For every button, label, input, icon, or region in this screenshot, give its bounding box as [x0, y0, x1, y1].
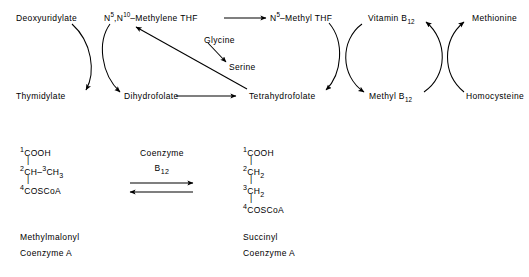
methylene-thf-suffix: –Methylene THF [130, 13, 198, 23]
caption-succinyl-line2: Coenzyme A [243, 245, 295, 261]
succinyl-group-coscoa: COSCoA [247, 205, 284, 215]
vitamin-b12-text: Vitamin B [368, 13, 407, 23]
structure-succinyl-coa: 1COOH | 2CH2 | 3CH2 | 4COSCoA [243, 144, 284, 214]
methylmalonyl-atom-4: 4COSCoA [20, 182, 64, 195]
caption-succinyl-line1: Succinyl [243, 229, 295, 245]
cofactor-line-b12: B12 [130, 161, 194, 180]
methyl-b12-text: Methyl B [369, 91, 405, 101]
cofactor-coenzyme-b12: Coenzyme B12 [130, 146, 194, 180]
caption-methylmalonyl-line1: Methylmalonyl [20, 229, 80, 245]
cofactor-line-coenzyme: Coenzyme [130, 146, 194, 161]
node-thymidylate: Thymidylate [16, 92, 66, 101]
arrow-methylb12-to-vitaminb12 [424, 22, 442, 92]
node-methylene-thf: N5,N10–Methylene THF [104, 14, 198, 23]
methyl-thf-suffix: –Methyl THF [280, 13, 332, 23]
diagram-canvas: Deoxyuridylate Thymidylate N5,N10–Methyl… [0, 0, 529, 277]
node-deoxyuridylate: Deoxyuridylate [16, 14, 77, 23]
arrow-vitaminb12-to-methylb12 [346, 24, 364, 92]
arrow-deoxyuridylate-to-thymidylate [72, 24, 91, 90]
node-methyl-b12: Methyl B12 [369, 92, 412, 101]
node-glycine: Glycine [204, 36, 235, 45]
structure-methylmalonyl-coa: 1COOH | 2CH–3CH3 | 4COSCoA [20, 144, 64, 195]
node-tetrahydrofolate: Tetrahydrofolate [249, 92, 316, 101]
caption-succinyl: Succinyl Coenzyme A [243, 229, 295, 261]
vitamin-b12-sub: 12 [407, 18, 414, 25]
node-serine: Serine [229, 63, 256, 72]
arrow-methylthf-to-tetrahydrofolate [326, 23, 340, 90]
arrow-homocysteine-to-methionine [448, 22, 465, 92]
node-vitamin-b12: Vitamin B12 [368, 14, 414, 23]
methylmalonyl-group-coscoa: COSCoA [24, 186, 61, 196]
arrow-methylenethf-to-dihydrofolate [102, 24, 120, 92]
node-homocysteine: Homocysteine [466, 92, 524, 101]
cofactor-b-sub: 12 [161, 168, 170, 176]
node-methyl-thf: N5–Methyl THF [270, 14, 332, 23]
succinyl-atom-4: 4COSCoA [243, 201, 284, 214]
caption-methylmalonyl: Methylmalonyl Coenzyme A [20, 229, 80, 261]
arrow-glycine-to-serine [208, 43, 226, 62]
node-methionine: Methionine [472, 14, 517, 23]
node-dihydrofolate: Dihydrofolate [124, 92, 179, 101]
methyl-b12-sub: 12 [405, 96, 412, 103]
methylene-thf-n2: ,N [114, 13, 123, 23]
caption-methylmalonyl-line2: Coenzyme A [20, 245, 80, 261]
